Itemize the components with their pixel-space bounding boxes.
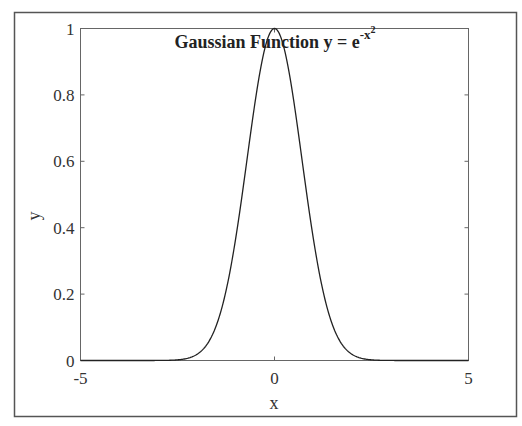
y-axis-label: y	[24, 212, 44, 221]
x-tick-label: 0	[270, 369, 279, 388]
y-tick-label: 0	[66, 352, 75, 371]
y-tick-label: 0.4	[53, 219, 75, 238]
x-tick-label: -5	[73, 369, 87, 388]
chart-title-main: Gaussian Function y = e	[174, 32, 359, 52]
chart-title-superscript: -x	[360, 27, 371, 42]
y-tick-label: 0.2	[53, 285, 74, 304]
y-tick-label: 0.6	[53, 152, 74, 171]
chart-title-exponent: 2	[371, 24, 376, 35]
y-tick-label: 1	[66, 20, 75, 39]
figure-frame	[15, 13, 517, 417]
y-tick-label: 0.8	[53, 86, 74, 105]
x-axis-label: x	[270, 393, 279, 413]
x-tick-label: 5	[464, 369, 473, 388]
gaussian-chart: -50500.20.40.60.81 Gaussian Function y =…	[0, 0, 522, 426]
